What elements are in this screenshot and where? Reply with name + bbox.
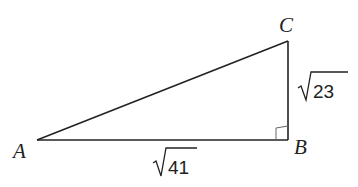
right-triangle-diagram: A B C 23 41 [0,0,358,187]
vertex-label-a: A [11,139,26,163]
side-label-ab: 41 [153,148,197,178]
vertex-label-b: B [294,135,307,159]
right-angle-marker [276,126,288,140]
side-value-bc: 23 [313,81,334,102]
side-label-bc: 23 [298,72,348,102]
vertex-label-c: C [279,13,294,37]
side-ac [37,41,288,140]
side-value-ab: 41 [168,157,189,178]
